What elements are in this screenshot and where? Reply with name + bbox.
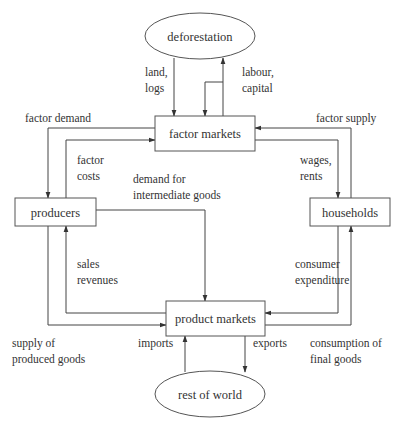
edge-label-line: expenditure	[295, 274, 349, 287]
economy-deforestation-diagram: deforestationfactor marketsproducershous…	[0, 0, 401, 429]
edge-label-line: final goods	[310, 353, 362, 366]
edge-label-line: revenues	[77, 274, 118, 286]
node-product-markets: product markets	[166, 301, 265, 336]
edge-label-line: sales	[77, 258, 100, 270]
edge-label-consumer-expenditure: consumerexpenditure	[295, 258, 349, 287]
edge-label-line: factor	[77, 154, 104, 166]
edge-label-line: land,	[145, 66, 168, 79]
edge-label-factor-costs: factorcosts	[77, 154, 104, 182]
edge-label-factor-supply: factor supply	[316, 112, 377, 125]
households-label: households	[322, 206, 378, 220]
edge-label-supply-produced-goods: supply ofproduced goods	[12, 337, 86, 366]
edge-label-sales-revenues: salesrevenues	[77, 258, 118, 286]
edge-label-line: exports	[253, 337, 287, 350]
edge-label-line: consumption of	[310, 337, 382, 350]
diagram-canvas: deforestationfactor marketsproducershous…	[0, 0, 401, 429]
edge-label-line: factor demand	[25, 112, 91, 124]
edge-label-line: consumer	[295, 258, 340, 270]
node-households: households	[310, 198, 390, 226]
edge-label-line: factor supply	[316, 112, 377, 125]
edge-label-line: produced goods	[12, 353, 86, 366]
factor-markets-label: factor markets	[169, 127, 241, 141]
node-rest-of-world: rest of world	[155, 371, 265, 417]
edge-label-labour-capital: labour,capital	[242, 66, 274, 95]
edge-label-line: wages,	[300, 154, 332, 167]
edge-label-line: costs	[77, 170, 101, 182]
edge-label-exports: exports	[253, 337, 287, 350]
edge-label-line: capital	[242, 82, 273, 95]
edge-label-factor-demand: factor demand	[25, 112, 91, 124]
edge-label-imports: imports	[138, 337, 174, 350]
node-factor-markets: factor markets	[155, 116, 255, 151]
edge-label-demand-intermediate-goods: demand forintermediate goods	[133, 173, 221, 202]
edge-label-line: intermediate goods	[133, 189, 221, 202]
edge-labour-capital-return	[205, 82, 223, 116]
edge-label-line: supply of	[12, 337, 55, 350]
edge-wages-rents	[255, 140, 338, 198]
edge-label-line: labour,	[242, 66, 274, 79]
product-markets-label: product markets	[175, 312, 256, 326]
rest-of-world-label: rest of world	[178, 388, 243, 402]
edge-demand-intermediate-goods	[96, 210, 205, 301]
edge-label-line: demand for	[133, 173, 186, 185]
node-producers: producers	[15, 198, 96, 226]
edge-label-line: imports	[138, 337, 174, 350]
edge-label-land-logs: land,logs	[145, 66, 168, 95]
edge-label-consumption-final-goods: consumption offinal goods	[310, 337, 382, 366]
edge-label-line: rents	[300, 170, 323, 182]
node-deforestation: deforestation	[145, 13, 255, 59]
edge-label-wages-rents: wages,rents	[300, 154, 332, 182]
edge-label-line: logs	[145, 82, 165, 95]
producers-label: producers	[31, 206, 80, 220]
deforestation-label: deforestation	[167, 30, 233, 44]
